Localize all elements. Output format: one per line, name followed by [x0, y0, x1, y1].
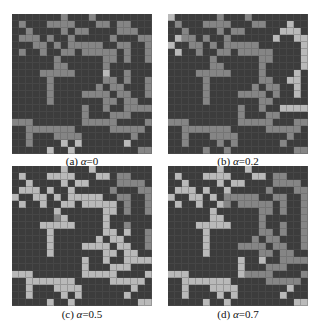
grid-cell — [145, 63, 152, 70]
grid-cell — [103, 98, 110, 105]
grid-cell — [287, 180, 294, 187]
grid-cell — [89, 63, 96, 70]
grid-cell — [301, 166, 308, 173]
grid-cell — [89, 126, 96, 133]
grid-cell — [61, 70, 68, 77]
grid-cell — [138, 194, 145, 201]
grid-cell — [175, 208, 182, 215]
grid-cell — [117, 105, 124, 112]
grid-cell — [294, 42, 301, 49]
grid-cell — [40, 208, 47, 215]
grid-cell — [47, 42, 54, 49]
grid-cell — [175, 271, 182, 278]
grid-cell — [266, 166, 273, 173]
grid-cell — [61, 42, 68, 49]
grid-cell — [182, 250, 189, 257]
grid-cell — [182, 236, 189, 243]
grid-cell — [210, 166, 217, 173]
grid-cell — [89, 215, 96, 222]
grid-cell — [40, 35, 47, 42]
grid-cell — [145, 215, 152, 222]
grid-cell — [301, 187, 308, 194]
grid-cell — [75, 215, 82, 222]
grid-cell — [203, 35, 210, 42]
grid-cell — [124, 133, 131, 140]
grid-cell — [47, 201, 54, 208]
grid-cell — [12, 194, 19, 201]
grid-cell — [138, 98, 145, 105]
grid-cell — [182, 292, 189, 299]
grid-cell — [75, 278, 82, 285]
grid-cell — [231, 77, 238, 84]
grid-cell — [47, 285, 54, 292]
grid-cell — [294, 56, 301, 63]
grid-cell — [124, 84, 131, 91]
grid-cell — [245, 236, 252, 243]
grid-cell — [40, 84, 47, 91]
grid-cell — [238, 77, 245, 84]
grid-cell — [19, 63, 26, 70]
grid-cell — [33, 84, 40, 91]
grid-cell — [168, 215, 175, 222]
grid-cell — [280, 105, 287, 112]
grid-cell — [182, 77, 189, 84]
grid-cell — [182, 222, 189, 229]
grid-cell — [196, 194, 203, 201]
grid-cell — [266, 222, 273, 229]
grid-cell — [145, 271, 152, 278]
grid-cell — [287, 285, 294, 292]
grid-cell — [280, 278, 287, 285]
grid-cell — [89, 264, 96, 271]
grid-cell — [294, 215, 301, 222]
grid-cell — [182, 28, 189, 35]
grid-cell — [252, 35, 259, 42]
grid-cell — [231, 91, 238, 98]
grid-cell — [82, 21, 89, 28]
grid-cell — [217, 299, 224, 306]
grid-cell — [124, 264, 131, 271]
grid-cell — [266, 201, 273, 208]
grid-cell — [217, 28, 224, 35]
grid-cell — [266, 257, 273, 264]
grid-cell — [145, 264, 152, 271]
grid-cell — [259, 187, 266, 194]
grid-cell — [266, 180, 273, 187]
grid-cell — [40, 70, 47, 77]
grid-cell — [131, 236, 138, 243]
grid-cell — [210, 147, 217, 154]
grid-cell — [103, 208, 110, 215]
grid-cell — [19, 271, 26, 278]
grid-cell — [75, 180, 82, 187]
grid-cell — [26, 285, 33, 292]
grid-cell — [124, 49, 131, 56]
grid-cell — [259, 222, 266, 229]
grid-cell — [89, 42, 96, 49]
grid-cell — [252, 236, 259, 243]
grid-cell — [68, 49, 75, 56]
grid-cell — [266, 299, 273, 306]
grid-cell — [131, 201, 138, 208]
grid-cell — [26, 187, 33, 194]
grid-cell — [145, 98, 152, 105]
grid-cell — [12, 84, 19, 91]
grid-cell — [203, 292, 210, 299]
grid-cell — [224, 63, 231, 70]
caption-c: (c) α=0.5 — [12, 308, 152, 320]
grid-cell — [47, 105, 54, 112]
grid-cell — [301, 70, 308, 77]
grid-cell — [96, 35, 103, 42]
grid-cell — [287, 42, 294, 49]
grid-cell — [117, 140, 124, 147]
grid-cell — [110, 133, 117, 140]
grid-cell — [245, 21, 252, 28]
grid-cell — [26, 264, 33, 271]
grid-cell — [280, 35, 287, 42]
grid-cell — [131, 271, 138, 278]
grid-cell — [138, 14, 145, 21]
grid-cell — [280, 126, 287, 133]
grid-cell — [19, 42, 26, 49]
grid-cell — [96, 28, 103, 35]
grid-cell — [259, 250, 266, 257]
grid-cell — [54, 105, 61, 112]
grid-cell — [273, 278, 280, 285]
